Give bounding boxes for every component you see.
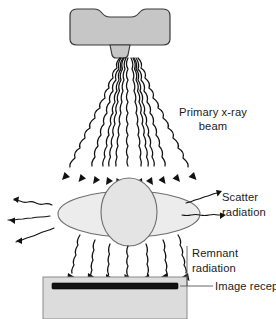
- radiographic-table: [43, 277, 187, 319]
- scatter-label-line2: radiation: [222, 206, 266, 218]
- remnant-label-line2: radiation: [192, 262, 236, 274]
- radiography-diagram: Primary x-ray beam Scatter radiation Rem…: [0, 0, 276, 319]
- image-receptor-bar: [52, 283, 178, 289]
- primary-beam-label-line2: beam: [199, 120, 227, 132]
- label-remnant-radiation: Remnant radiation: [192, 247, 239, 274]
- image-receptor-label: Image receptor: [215, 280, 276, 292]
- primary-xray-beam-rays: [62, 58, 197, 186]
- primary-beam-label-line1: Primary x-ray: [179, 106, 247, 118]
- x-ray-tube-housing: [70, 9, 170, 58]
- label-scatter-radiation: Scatter radiation: [222, 191, 266, 218]
- scatter-radiation-rays-left: [8, 197, 54, 245]
- remnant-label-line1: Remnant: [192, 247, 239, 259]
- label-primary-beam: Primary x-ray beam: [179, 106, 247, 132]
- scatter-label-line1: Scatter: [222, 191, 258, 203]
